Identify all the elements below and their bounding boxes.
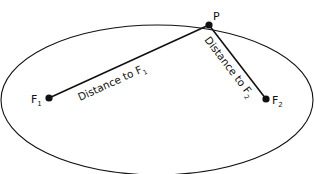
point-f1-dot [45,94,52,101]
label-f2: F2 [272,94,283,109]
label-p: P [213,10,220,23]
label-distance-to-f1: Distance to F1 [76,61,149,105]
point-p-dot [205,21,212,28]
segment-p-to-f1 [49,25,209,98]
ellipse-diagram: P F1 F2 Distance to F1 Distance to F2 [0,0,314,174]
label-f1: F1 [31,93,42,108]
point-f2-dot [262,95,269,102]
label-distance-to-f2: Distance to F2 [200,34,257,101]
